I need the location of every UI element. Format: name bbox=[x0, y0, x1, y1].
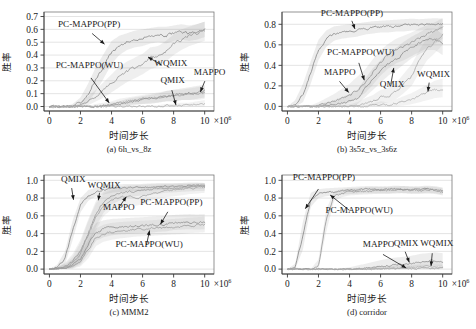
x-tick-label: 6 bbox=[378, 116, 383, 126]
y-tick-label: 0.5 bbox=[26, 38, 38, 48]
x-exponent-text: ×106 bbox=[214, 114, 232, 126]
y-tick-label: 0.4 bbox=[26, 50, 38, 60]
series-group bbox=[287, 18, 442, 107]
annotation-arrow-head bbox=[71, 195, 75, 200]
x-tick-label: 4 bbox=[347, 279, 352, 289]
y-tick-label: 0.2 bbox=[26, 247, 38, 257]
series-annotation-label: MAPPO bbox=[194, 67, 226, 77]
x-tick-label: 6 bbox=[378, 279, 383, 289]
y-axis-label: 胜率 bbox=[239, 52, 250, 72]
series-annotation-label: QMIX bbox=[160, 75, 185, 85]
x-axis-label: 时间步长 bbox=[347, 130, 387, 141]
x-tick-label: 8 bbox=[409, 116, 414, 126]
x-axis-exponent: ×106 bbox=[214, 277, 232, 289]
y-tick-label: 0.6 bbox=[264, 40, 276, 50]
series-annotation-label: PC-MAPPO(WU) bbox=[327, 47, 394, 57]
panel-caption: (b) 3s5z_vs_3s6z bbox=[337, 144, 397, 154]
y-tick-label: 1.0 bbox=[26, 176, 38, 186]
series-annotation-label: QMIX bbox=[380, 79, 405, 89]
x-tick-label: 2 bbox=[316, 116, 321, 126]
y-tick-label: 1.0 bbox=[264, 176, 276, 186]
chart-panel-a: 02468100.00.10.20.30.40.50.60.7×106时间步长胜… bbox=[0, 0, 238, 166]
series-annotation-label: MAPPO bbox=[363, 239, 395, 249]
y-tick-label: 0.2 bbox=[26, 76, 38, 86]
y-tick-label: 0.6 bbox=[26, 211, 38, 221]
y-tick-label: 0.3 bbox=[26, 63, 38, 73]
panel-caption: (d) corridor bbox=[347, 307, 387, 317]
series-annotation-label: WQMIX bbox=[87, 180, 121, 190]
x-tick-label: 6 bbox=[140, 279, 145, 289]
y-tick-label: 0.1 bbox=[26, 89, 38, 99]
panel-caption: (a) 6h_vs_8z bbox=[107, 144, 152, 154]
x-tick-label: 10 bbox=[200, 279, 210, 289]
series-annotation-label: PC-MAPPO(WU) bbox=[56, 60, 123, 70]
y-tick-label: 0.8 bbox=[26, 193, 38, 203]
chart-svg-c: 02468100.00.20.40.60.81.0×106时间步长胜率(c) M… bbox=[0, 163, 238, 329]
chart-panel-b: 02468100.00.20.40.60.8×106时间步长胜率(b) 3s5z… bbox=[238, 0, 476, 166]
series-annotation-label: PC-MAPPO(PP) bbox=[293, 172, 355, 182]
y-tick-label: 0.0 bbox=[26, 264, 38, 274]
chart-svg-a: 02468100.00.10.20.30.40.50.60.7×106时间步长胜… bbox=[0, 0, 238, 166]
x-tick-label: 4 bbox=[109, 279, 114, 289]
series-annotation-label: QMIX bbox=[394, 238, 419, 248]
x-tick-label: 0 bbox=[285, 116, 290, 126]
y-tick-label: 0.2 bbox=[264, 81, 276, 91]
y-tick-label: 0.0 bbox=[264, 102, 276, 112]
x-axis-exponent: ×106 bbox=[452, 114, 470, 126]
y-axis-label: 胜率 bbox=[1, 52, 12, 72]
figure-container: 02468100.00.10.20.30.40.50.60.7×106时间步长胜… bbox=[0, 0, 476, 329]
series-annotation-label: WQMIX bbox=[417, 69, 451, 79]
x-tick-label: 2 bbox=[316, 279, 321, 289]
series-annotation-label: MAPPO bbox=[324, 67, 356, 77]
y-tick-label: 0.4 bbox=[264, 229, 276, 239]
y-axis-label: 胜率 bbox=[239, 215, 250, 235]
y-axis-label: 胜率 bbox=[1, 215, 12, 235]
chart-svg-b: 02468100.00.20.40.60.8×106时间步长胜率(b) 3s5z… bbox=[238, 0, 476, 166]
series-annotation-label: PC-MAPPO(PP) bbox=[58, 19, 120, 29]
y-tick-label: 0.7 bbox=[26, 12, 38, 22]
x-tick-label: 6 bbox=[140, 116, 145, 126]
series-annotation-label: WQMIX bbox=[154, 58, 188, 68]
x-tick-label: 10 bbox=[438, 279, 448, 289]
x-exponent-text: ×106 bbox=[214, 277, 232, 289]
series-annotation-label: QMIX bbox=[61, 174, 86, 184]
panel-caption: (c) MMM2 bbox=[110, 307, 149, 317]
x-tick-label: 0 bbox=[47, 279, 52, 289]
x-tick-label: 10 bbox=[438, 116, 448, 126]
x-axis-exponent: ×106 bbox=[452, 277, 470, 289]
x-tick-label: 0 bbox=[47, 116, 52, 126]
y-tick-label: 0.2 bbox=[264, 247, 276, 257]
x-tick-label: 8 bbox=[409, 279, 414, 289]
y-tick-label: 0.8 bbox=[264, 20, 276, 30]
series-annotation-label: PC-MAPPO(PP) bbox=[321, 8, 383, 18]
y-tick-label: 0.4 bbox=[264, 61, 276, 71]
x-tick-label: 10 bbox=[200, 116, 210, 126]
x-tick-label: 4 bbox=[109, 116, 114, 126]
y-tick-label: 0.0 bbox=[26, 102, 38, 112]
x-tick-label: 8 bbox=[171, 279, 176, 289]
x-tick-label: 2 bbox=[78, 116, 83, 126]
chart-panel-c: 02468100.00.20.40.60.81.0×106时间步长胜率(c) M… bbox=[0, 163, 238, 329]
y-tick-label: 0.8 bbox=[264, 193, 276, 203]
x-axis-label: 时间步长 bbox=[109, 130, 149, 141]
x-tick-label: 8 bbox=[171, 116, 176, 126]
x-tick-label: 4 bbox=[347, 116, 352, 126]
x-axis-label: 时间步长 bbox=[109, 293, 149, 304]
series-annotation-label: PC-MAPPO(WU) bbox=[325, 205, 392, 215]
x-exponent-text: ×106 bbox=[452, 114, 470, 126]
series-annotation-label: WQMIX bbox=[420, 238, 454, 248]
x-exponent-text: ×106 bbox=[452, 277, 470, 289]
series-annotation-label: PC-MAPPO(WU) bbox=[115, 239, 182, 249]
series-annotation-label: PC-MAPPO(PP) bbox=[140, 197, 202, 207]
y-tick-label: 0.4 bbox=[26, 229, 38, 239]
y-tick-label: 0.6 bbox=[26, 25, 38, 35]
x-tick-label: 0 bbox=[285, 279, 290, 289]
x-axis-label: 时间步长 bbox=[347, 293, 387, 304]
y-tick-label: 0.6 bbox=[264, 211, 276, 221]
chart-svg-d: 02468100.00.20.40.60.81.0×106时间步长胜率(d) c… bbox=[238, 163, 476, 329]
y-tick-label: 0.0 bbox=[264, 264, 276, 274]
x-axis-exponent: ×106 bbox=[214, 114, 232, 126]
x-tick-label: 2 bbox=[78, 279, 83, 289]
chart-panel-d: 02468100.00.20.40.60.81.0×106时间步长胜率(d) c… bbox=[238, 163, 476, 329]
